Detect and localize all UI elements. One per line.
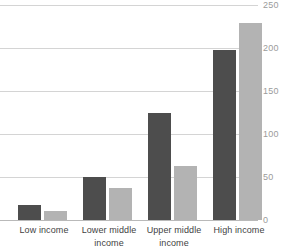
bar [213,50,236,220]
category-label-line: Lower middle [72,224,146,237]
category-label-line: income [137,237,211,250]
bar [239,23,262,220]
bar [174,166,197,220]
bar [109,188,132,220]
y-tick-label: 50 [263,173,273,182]
category-label: High income [202,224,276,237]
bar [18,205,41,220]
category-label-line: Upper middle [137,224,211,237]
category-label: Low income [7,224,81,237]
bars-layer [0,5,258,220]
category-label: Lower middleincome [72,224,146,250]
bar [83,177,106,220]
bar-chart: 050100150200250 Low incomeLower middlein… [0,0,285,251]
bar-group [83,5,135,220]
gridline-0 [0,220,258,221]
y-tick-label: 250 [263,1,279,10]
y-tick-label: 100 [263,130,279,139]
x-axis-category-labels: Low incomeLower middleincomeUpper middle… [0,224,258,251]
bar-group [148,5,200,220]
bar [44,211,67,220]
category-label-line: High income [202,224,276,237]
category-label-line: income [72,237,146,250]
plot-area [0,5,258,220]
category-label: Upper middleincome [137,224,211,250]
bar-group [213,5,265,220]
y-tick-label: 150 [263,87,279,96]
bar-group [18,5,70,220]
y-tick-label: 200 [263,44,279,53]
bar [148,113,171,221]
category-label-line: Low income [7,224,81,237]
